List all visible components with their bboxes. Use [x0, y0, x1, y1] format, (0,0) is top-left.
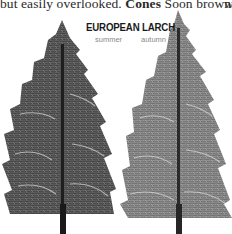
autumn-label: autumn [141, 35, 166, 44]
autumn-larch-illustration [120, 8, 232, 234]
tree-autumn-icon [120, 8, 232, 234]
summer-larch-illustration [0, 14, 116, 234]
body-text-pre: but easily overlooked. [0, 0, 125, 11]
figure-title: EUROPEAN LARCH [86, 21, 175, 33]
summer-label: summer [95, 35, 122, 44]
tree-summer-icon [0, 14, 116, 234]
